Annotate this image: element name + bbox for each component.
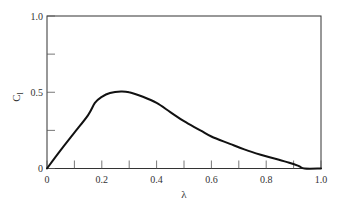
y-axis-ticks xyxy=(47,16,55,169)
x-axis-label: λ xyxy=(181,188,187,200)
x-tick-label: 0.8 xyxy=(260,174,273,185)
x-tick-label: 0.2 xyxy=(96,174,109,185)
y-tick-label: 0.5 xyxy=(31,87,44,98)
x-tick-label: 0.6 xyxy=(205,174,218,185)
x-tick-label: 0.4 xyxy=(150,174,163,185)
data-curve xyxy=(47,91,321,168)
y-axis-label-subscript: l xyxy=(16,91,25,94)
plot-frame xyxy=(47,16,321,169)
y-axis-label-main: C xyxy=(10,94,22,101)
y-axis-tick-labels: 00.51.0 xyxy=(31,11,44,175)
x-tick-label: 1.0 xyxy=(315,174,328,185)
x-axis-tick-labels: 00.20.40.60.81.0 xyxy=(45,174,328,185)
y-tick-label: 1.0 xyxy=(31,11,44,22)
x-tick-label: 0 xyxy=(45,174,50,185)
chart: 00.20.40.60.81.0 00.51.0 λ Cl xyxy=(0,0,339,205)
y-axis-label: Cl xyxy=(10,91,25,101)
x-axis-ticks xyxy=(47,161,321,169)
y-tick-label: 0 xyxy=(38,163,43,174)
